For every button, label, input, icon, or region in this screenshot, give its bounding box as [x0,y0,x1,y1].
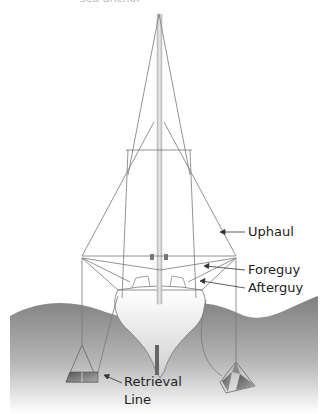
winch [150,254,154,260]
winch [164,254,168,260]
uphaul-label: Uphaul [248,224,294,240]
diagram-canvas [0,0,327,414]
foreguy-label: Foreguy [248,262,300,278]
retrieval-line-label-1: Retrieval [124,374,182,390]
afterguy-label: Afterguy [248,280,303,296]
sea-anchor-diagram: sea anchor [0,0,327,414]
retrieval-line-label-2: Line [124,392,151,408]
mast [157,14,162,304]
cropped-caption: sea anchor [80,0,141,5]
keel [155,345,159,375]
